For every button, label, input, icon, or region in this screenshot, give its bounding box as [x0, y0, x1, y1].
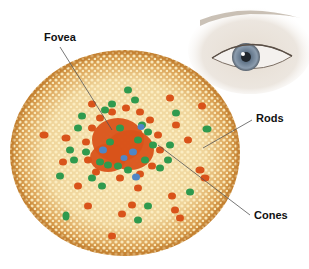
rods-label: Rods: [256, 113, 284, 124]
cones-label: Cones: [254, 210, 288, 221]
fovea-label: Fovea: [44, 32, 76, 43]
retina-diagram: Fovea Rods Cones: [0, 0, 309, 269]
